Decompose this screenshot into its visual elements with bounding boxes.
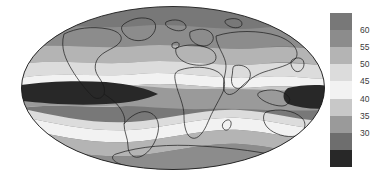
colorbar-band-45-50[interactable] <box>330 64 352 81</box>
colorbar-band-35-40[interactable] <box>330 99 352 116</box>
colorbar-tick-label: 60 <box>360 25 370 35</box>
colorbar-tick-label: 40 <box>360 94 370 104</box>
colorbar[interactable]: 60 55 50 45 40 35 30 <box>329 12 387 168</box>
colorbar-band-gt60[interactable] <box>330 13 352 30</box>
colorbar-band-55-60[interactable] <box>330 30 352 47</box>
colorbar-tick-label: 55 <box>360 42 370 52</box>
colorbar-band-50-55[interactable] <box>330 47 352 64</box>
colorbar-svg[interactable]: 60 55 50 45 40 35 30 <box>329 12 387 168</box>
colorbar-band-lt25[interactable] <box>330 150 352 167</box>
colorbar-tick-label: 35 <box>360 111 370 121</box>
map-panel <box>20 4 326 172</box>
contour-field <box>20 4 326 172</box>
colorbar-band-40-45[interactable] <box>330 81 352 99</box>
colorbar-tick-label: 50 <box>360 59 370 69</box>
colorbar-band-25-30[interactable] <box>330 133 352 150</box>
world-contour-map <box>20 4 326 172</box>
colorbar-tick-label: 30 <box>360 128 370 138</box>
colorbar-tick-label: 45 <box>360 76 370 86</box>
colorbar-tick-labels: 60 55 50 45 40 35 30 <box>360 25 370 138</box>
colorbar-band-30-35[interactable] <box>330 116 352 133</box>
colorbar-bands <box>330 13 352 167</box>
coastline-new-zealand <box>309 134 319 144</box>
figure-canvas: 60 55 50 45 40 35 30 <box>0 0 387 176</box>
